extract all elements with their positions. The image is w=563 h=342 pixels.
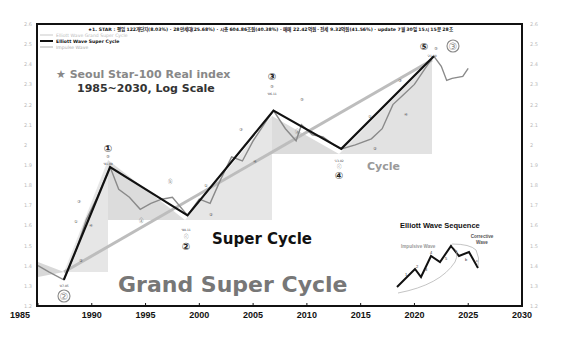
- y-tick-label: 1.8: [24, 182, 32, 188]
- impulsive-wave-label: Impulsive Wave: [401, 244, 436, 249]
- grand-wave-3-label: ③: [449, 41, 458, 52]
- chart-subtitle: 1985~2030, Log Scale: [77, 82, 215, 95]
- inset-wave-num: 2: [416, 264, 419, 269]
- date-label-1302: '13-02: [334, 159, 344, 163]
- y-tick-label: 1.4: [24, 263, 32, 269]
- y-tick-label: 2.1: [530, 122, 538, 128]
- sub-wave-label: ④: [89, 223, 93, 228]
- super-cycle-label: Super Cycle: [212, 230, 312, 248]
- y-tick-label: 1.7: [530, 202, 538, 208]
- super-wave-4-label: ④: [335, 170, 343, 181]
- super-wave-2-label: ②: [182, 241, 190, 252]
- x-tick-label: 2015: [351, 310, 371, 320]
- header-stats: ★1. STAR : 평입 122개단지(8.03%) · 28만세대(25.6…: [88, 26, 454, 33]
- sub-wave-label: ③: [239, 127, 243, 132]
- x-tick-label: 2010: [297, 310, 317, 320]
- sub-wave-label: ④: [404, 112, 408, 117]
- x-tick-label: 2020: [404, 310, 424, 320]
- y-tick-label: 1.3: [530, 283, 538, 289]
- y-tick-label: 2.5: [24, 41, 32, 47]
- y-tick-label: 1.8: [530, 182, 538, 188]
- y-axis-right: 2.62.52.42.32.22.121.91.81.71.61.51.41.3…: [530, 21, 538, 309]
- date-label-2110: '21-10: [427, 54, 437, 58]
- grand-super-cycle-label: Grand Super Cycle: [118, 272, 348, 297]
- corrective-wave-label-2: Wave: [476, 240, 488, 245]
- y-tick-label: 1.3: [24, 283, 32, 289]
- legend: Elliott Wave Grand Super Cycle Elliott W…: [40, 33, 128, 50]
- y-tick-label: 2.6: [530, 21, 538, 27]
- sub-wave-label: ②: [209, 212, 213, 217]
- sub-wave-label: ③: [77, 199, 81, 204]
- elliott-wave-sequence-inset: Elliott Wave Sequence Impulsive Wave Cor…: [397, 221, 494, 293]
- y-tick-label: 1.5: [530, 243, 538, 249]
- y-tick-label: 2: [24, 142, 27, 148]
- inset-title: Elliott Wave Sequence: [400, 221, 480, 230]
- y-tick-label: 2.2: [24, 102, 32, 108]
- super-wave-1-label: ①: [104, 143, 112, 154]
- date-label-8705: '87-05: [59, 284, 69, 288]
- inset-wave-num: 4: [430, 250, 433, 255]
- y-tick-label: 2.6: [24, 21, 32, 27]
- sub-wave-label: ⑤: [106, 154, 110, 159]
- sub-wave-label: ①: [204, 183, 208, 188]
- y-tick-label: 2.4: [24, 61, 32, 67]
- y-tick-label: 1.6: [530, 222, 538, 228]
- sub-wave-label: ①: [368, 114, 372, 119]
- y-tick-label: 2.2: [530, 102, 538, 108]
- sub-wave-label: ⓒ: [184, 233, 189, 240]
- y-tick-label: 1.7: [24, 202, 32, 208]
- sub-wave-label: ⑤: [270, 84, 274, 89]
- cycle-label: Cycle: [367, 160, 400, 173]
- x-tick-label: 2000: [189, 310, 209, 320]
- super-wave-3-label: ③: [268, 71, 276, 82]
- sub-wave-label: ⓑ: [168, 178, 173, 185]
- sub-wave-label: ③: [398, 78, 402, 83]
- date-label-9811: '98-11: [181, 228, 191, 232]
- x-tick-label: 2025: [458, 310, 478, 320]
- y-tick-label: 1.9: [530, 162, 538, 168]
- inset-wave-num: 3: [425, 267, 428, 272]
- y-tick-label: 2.3: [530, 81, 538, 87]
- sub-wave-label: ⑤: [434, 46, 438, 51]
- inset-wave-num: a: [455, 248, 458, 253]
- sub-wave-label: ①: [74, 219, 78, 224]
- sub-wave-label: ②: [373, 146, 377, 151]
- x-tick-label: 1985: [10, 310, 30, 320]
- x-tick-label: 2005: [243, 310, 263, 320]
- date-label-9109: '91-09: [103, 162, 113, 166]
- y-tick-label: 1.9: [24, 162, 32, 168]
- grand-wave-2-label: ②: [60, 291, 69, 302]
- y-tick-label: 1.6: [24, 222, 32, 228]
- y-axis-left: 2.62.52.42.32.22.121.91.81.71.61.51.41.3…: [24, 21, 32, 309]
- y-tick-label: 1.4: [530, 263, 538, 269]
- y-tick-label: 2.5: [530, 41, 538, 47]
- x-tick-label: 2030: [512, 310, 532, 320]
- legend-impulse-wave: Impulse Wave: [56, 45, 88, 50]
- y-tick-label: 2.1: [24, 122, 32, 128]
- sub-wave-label: ④: [253, 159, 257, 164]
- x-tick-label: 1990: [82, 310, 102, 320]
- date-label-0611: '06-11: [267, 92, 277, 96]
- sub-wave-label: ②: [79, 258, 83, 263]
- sub-wave-label: ⑤: [300, 97, 304, 102]
- y-tick-label: 2.3: [24, 81, 32, 87]
- y-tick-label: 1.2: [530, 303, 538, 309]
- super-wave-5-label: ⑤: [420, 41, 428, 52]
- inset-wave-num: 5: [445, 256, 448, 261]
- inset-wave-num: c: [476, 258, 478, 263]
- y-tick-label: 1.2: [24, 303, 32, 309]
- inset-wave-num: b: [465, 257, 468, 262]
- elliott-wave-chart: 2.62.52.42.32.22.121.91.81.71.61.51.41.3…: [0, 0, 563, 342]
- x-tick-label: 1995: [136, 310, 156, 320]
- sub-wave-label: ⓒ: [337, 163, 342, 170]
- legend-super-cycle: Elliott Wave Super Cycle: [56, 39, 119, 44]
- y-tick-label: 1.5: [24, 243, 32, 249]
- chart-title: ★ Seoul Star-100 Real index: [56, 68, 230, 81]
- legend-grand-super-cycle: Elliott Wave Grand Super Cycle: [56, 33, 128, 38]
- y-tick-label: 2.4: [530, 61, 538, 67]
- y-tick-label: 2: [530, 142, 533, 148]
- corrective-wave-label: Corrective: [471, 234, 494, 239]
